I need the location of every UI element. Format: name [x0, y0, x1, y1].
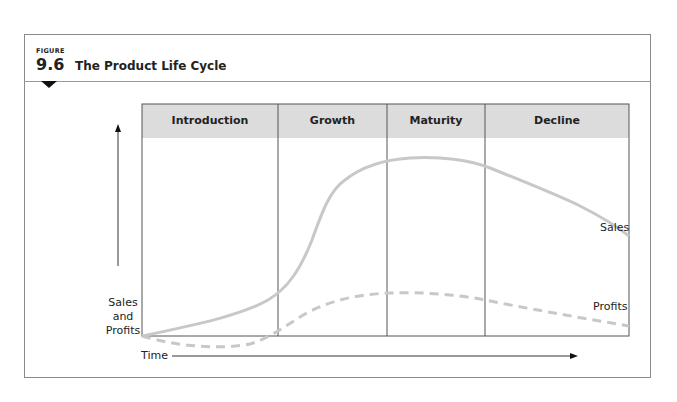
y-axis-label-line3: Profits	[103, 324, 143, 338]
x-axis-label: Time	[141, 349, 168, 362]
product-life-cycle-chart	[0, 0, 677, 402]
stage-introduction: Introduction	[142, 104, 278, 138]
chart-box	[142, 104, 629, 336]
y-axis-label: Sales and Profits	[103, 296, 143, 338]
x-axis-arrow-icon	[570, 353, 578, 359]
sales-tag: Sales	[600, 221, 629, 234]
y-axis-label-line1: Sales	[103, 296, 143, 310]
stage-maturity: Maturity	[387, 104, 485, 138]
sales-curve	[142, 157, 629, 336]
profits-tag: Profits	[593, 300, 627, 313]
y-axis-arrow-icon	[115, 124, 121, 132]
stage-decline: Decline	[485, 104, 629, 138]
y-axis-label-line2: and	[103, 310, 143, 324]
stage-growth: Growth	[278, 104, 387, 138]
